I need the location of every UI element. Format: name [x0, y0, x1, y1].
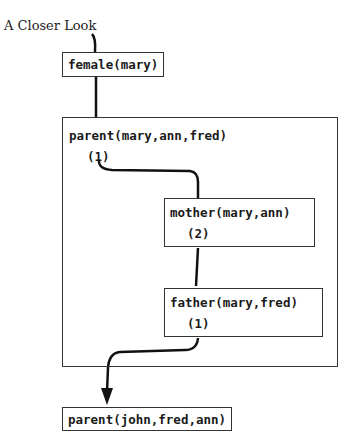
female-label: female(mary): [68, 57, 158, 72]
mother-mary-ann-box: mother(mary,ann) (2): [164, 198, 315, 247]
parent-outer-label: parent(mary,ann,fred): [69, 128, 227, 143]
parent-outer-counter: (1): [87, 149, 110, 164]
mother-label: mother(mary,ann): [170, 205, 290, 220]
father-mary-fred-box: father(mary,fred) (1): [164, 288, 323, 337]
mother-counter: (2): [187, 226, 210, 241]
female-mary-box: female(mary): [62, 52, 164, 77]
father-label: father(mary,fred): [170, 295, 298, 310]
parent-john-fred-ann-box: parent(john,fred,ann): [62, 407, 232, 431]
parent-next-label: parent(john,fred,ann): [68, 412, 226, 427]
arrow-head-icon: [101, 388, 113, 405]
father-counter: (1): [187, 316, 210, 331]
